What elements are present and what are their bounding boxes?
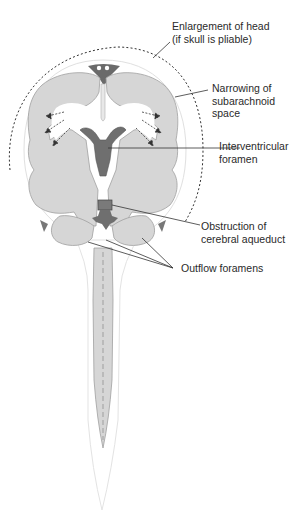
label-interventricular-foramen: Interventricular foramen xyxy=(219,140,288,165)
label-enlargement-of-head: Enlargement of head (if skull is pliable… xyxy=(172,20,269,45)
label-obstruction-aqueduct: Obstruction of cerebral aqueduct xyxy=(201,220,285,245)
hydrocephalus-diagram xyxy=(0,0,307,513)
aqueduct-obstruction xyxy=(98,200,112,210)
label-outflow-foramens: Outflow foramens xyxy=(181,262,263,275)
label-narrowing-subarachnoid: Narrowing of subarachnoid space xyxy=(212,82,275,120)
